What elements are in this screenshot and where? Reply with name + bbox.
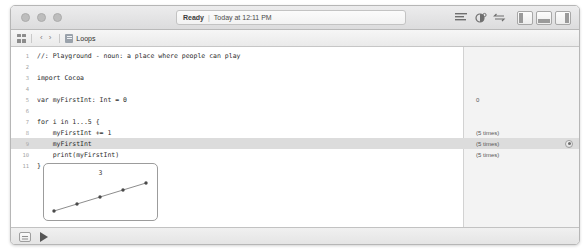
close-button[interactable] <box>21 13 30 22</box>
line-result: (5 times) <box>476 130 499 136</box>
line-result: (5 times) <box>476 152 499 158</box>
version-editor-icon[interactable] <box>492 10 507 25</box>
source-editor[interactable]: 1//: Playground - noun: a place where pe… <box>11 47 579 227</box>
line-code: var myFirstInt: Int = 0 <box>33 96 127 104</box>
graph-value-label: 3 <box>99 169 103 177</box>
jumpbar-divider-2 <box>59 34 60 43</box>
line-number: 6 <box>11 108 33 114</box>
minimize-button[interactable] <box>37 13 46 22</box>
navigator-panel-toggle[interactable] <box>517 11 533 25</box>
line-number: 4 <box>11 86 33 92</box>
code-line-1[interactable]: 1//: Playground - noun: a place where pe… <box>11 50 579 61</box>
quick-look-button[interactable] <box>565 140 573 148</box>
code-line-10[interactable]: 10 print(myFirstInt)(5 times) <box>11 149 579 160</box>
code-line-2[interactable]: 2 <box>11 61 579 72</box>
breadcrumb-item-loops[interactable]: Loops <box>76 35 95 42</box>
line-code: //: Playground - noun: a place where peo… <box>33 52 241 60</box>
editor-options-icon[interactable] <box>454 10 469 25</box>
code-line-3[interactable]: 3import Cocoa <box>11 72 579 83</box>
line-code: myFirstInt <box>33 140 92 148</box>
line-code: for i in 1...5 { <box>33 118 100 126</box>
line-result: (5 times) <box>476 141 499 147</box>
traffic-lights <box>21 13 62 22</box>
breadcrumb: ‹ › Loops <box>11 30 579 47</box>
status-timestamp: Today at 12:11 PM <box>214 14 272 21</box>
jumpbar-divider-1 <box>31 34 32 43</box>
status-state: Ready <box>183 14 204 21</box>
line-result: 0 <box>476 97 479 103</box>
code-line-4[interactable]: 4 <box>11 83 579 94</box>
console-toggle-button[interactable] <box>19 232 31 242</box>
run-playground-button[interactable] <box>40 232 48 242</box>
code-line-5[interactable]: 5var myFirstInt: Int = 00 <box>11 94 579 105</box>
code-line-8[interactable]: 8 myFirstInt += 1(5 times) <box>11 127 579 138</box>
status-bar: Ready | Today at 12:11 PM <box>176 10 406 25</box>
line-number: 7 <box>11 119 33 125</box>
back-button[interactable]: ‹ <box>37 34 46 42</box>
utilities-panel-toggle[interactable] <box>555 11 571 25</box>
line-number: 9 <box>11 141 33 147</box>
code-line-7[interactable]: 7for i in 1...5 { <box>11 116 579 127</box>
xcode-playground-window: Ready | Today at 12:11 PM <box>10 5 580 245</box>
bottom-toolbar <box>11 227 579 245</box>
window-titlebar: Ready | Today at 12:11 PM <box>11 6 579 30</box>
line-number: 10 <box>11 152 33 158</box>
forward-button[interactable]: › <box>46 34 55 42</box>
value-history-graph[interactable]: 3 <box>43 163 158 221</box>
code-line-6[interactable]: 6 <box>11 105 579 116</box>
zoom-button[interactable] <box>53 13 62 22</box>
line-code: import Cocoa <box>33 74 84 82</box>
line-number: 1 <box>11 53 33 59</box>
debug-panel-toggle[interactable] <box>536 11 552 25</box>
assistant-editor-icon[interactable] <box>473 10 488 25</box>
status-separator: | <box>208 14 210 21</box>
toolbar-right <box>454 10 571 25</box>
line-number: 2 <box>11 64 33 70</box>
line-number: 5 <box>11 97 33 103</box>
playground-file-icon <box>65 34 73 43</box>
panel-toggle-group <box>517 11 571 25</box>
related-items-icon[interactable] <box>17 34 26 43</box>
line-number: 11 <box>11 163 33 169</box>
code-line-9[interactable]: 9 myFirstInt(5 times) <box>11 138 579 149</box>
line-number: 8 <box>11 130 33 136</box>
line-code: print(myFirstInt) <box>33 151 119 159</box>
line-number: 3 <box>11 75 33 81</box>
line-code: myFirstInt += 1 <box>33 129 111 137</box>
line-code: } <box>33 162 41 170</box>
